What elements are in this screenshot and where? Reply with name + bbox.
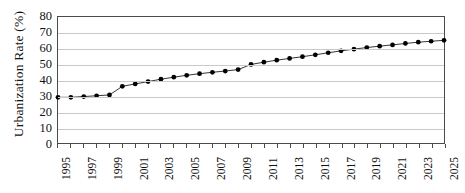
data-point-marker: [326, 50, 331, 55]
gridline: [58, 129, 444, 130]
x-tick-label: 2001: [139, 157, 151, 180]
data-point-marker: [236, 67, 241, 72]
x-tick-mark: [251, 144, 252, 148]
data-point-marker: [133, 82, 138, 87]
y-tick-label: 70: [4, 26, 52, 39]
x-tick-mark: [238, 144, 239, 148]
x-tick-mark: [354, 144, 355, 148]
x-tick-mark: [212, 144, 213, 148]
x-tick-label: 2023: [423, 157, 435, 180]
x-tick-mark: [419, 144, 420, 148]
data-point-marker: [184, 73, 189, 78]
y-tick-label: 80: [4, 10, 52, 23]
x-tick-label: 2015: [320, 157, 332, 180]
gridline: [58, 81, 444, 82]
x-tick-label: 2019: [371, 157, 383, 180]
x-tick-label: 2003: [164, 157, 176, 180]
x-tick-label: 2025: [449, 157, 461, 180]
gridline: [58, 33, 444, 34]
x-tick-mark: [290, 144, 291, 148]
x-tick-mark: [380, 144, 381, 148]
data-point-marker: [261, 60, 266, 65]
x-tick-mark: [329, 144, 330, 148]
x-tick-mark: [96, 144, 97, 148]
x-tick-mark: [393, 144, 394, 148]
x-tick-mark: [264, 144, 265, 148]
y-tick-label: 40: [4, 74, 52, 87]
data-point-marker: [287, 56, 292, 61]
chart-figure: Urbanization Rate (%) 01020304050607080 …: [0, 0, 465, 193]
x-tick-mark: [406, 144, 407, 148]
x-tick-label: 2013: [294, 157, 306, 180]
x-tick-mark: [122, 144, 123, 148]
x-tick-mark: [109, 144, 110, 148]
x-tick-mark: [160, 144, 161, 148]
y-axis-tick-labels: 01020304050607080: [0, 0, 52, 193]
x-tick-mark: [445, 144, 446, 148]
x-tick-mark: [367, 144, 368, 148]
x-tick-mark: [303, 144, 304, 148]
x-tick-mark: [148, 144, 149, 148]
y-tick-label: 10: [4, 122, 52, 135]
x-tick-mark: [432, 144, 433, 148]
data-point-marker: [416, 40, 421, 45]
data-point-marker: [171, 75, 176, 80]
data-point-marker: [403, 41, 408, 46]
data-point-marker: [223, 69, 228, 74]
series-layer: [58, 17, 444, 143]
y-tick-label: 60: [4, 42, 52, 55]
x-tick-mark: [316, 144, 317, 148]
data-point-marker: [274, 58, 279, 63]
data-point-marker: [120, 84, 125, 89]
data-point-marker: [313, 52, 318, 57]
data-point-marker: [377, 44, 382, 49]
y-tick-label: 20: [4, 106, 52, 119]
data-point-marker: [197, 71, 202, 76]
data-point-marker: [210, 70, 215, 75]
x-tick-label: 2005: [190, 157, 202, 180]
x-tick-mark: [225, 144, 226, 148]
x-tick-mark: [70, 144, 71, 148]
x-tick-label: 2011: [268, 157, 280, 180]
gridline: [58, 65, 444, 66]
x-tick-mark: [173, 144, 174, 148]
x-tick-mark: [135, 144, 136, 148]
x-axis-tick-labels: 1995199719992001200320052007200920112013…: [57, 150, 445, 193]
data-point-marker: [390, 43, 395, 48]
y-tick-label: 0: [4, 138, 52, 151]
gridline: [58, 49, 444, 50]
x-tick-label: 1999: [113, 157, 125, 180]
x-tick-mark: [199, 144, 200, 148]
x-tick-mark: [186, 144, 187, 148]
gridline: [58, 97, 444, 98]
x-tick-label: 1995: [61, 157, 73, 180]
x-tick-mark: [83, 144, 84, 148]
x-tick-label: 2007: [216, 157, 228, 180]
x-tick-label: 2021: [397, 157, 409, 180]
x-tick-mark: [57, 144, 58, 148]
x-tick-mark: [277, 144, 278, 148]
x-tick-label: 1997: [87, 157, 99, 180]
x-tick-mark: [342, 144, 343, 148]
x-tick-label: 2017: [346, 157, 358, 180]
gridline: [58, 113, 444, 114]
plot-area: [57, 16, 445, 144]
data-point-marker: [442, 38, 447, 43]
y-tick-label: 30: [4, 90, 52, 103]
data-point-marker: [300, 54, 305, 59]
data-point-marker: [429, 39, 434, 44]
x-tick-label: 2009: [242, 157, 254, 180]
y-tick-label: 50: [4, 58, 52, 71]
